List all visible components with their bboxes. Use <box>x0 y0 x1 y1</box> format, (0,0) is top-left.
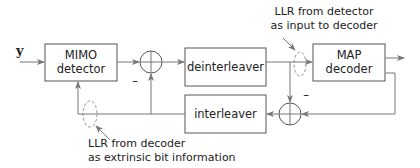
detector-llr-annotation-line1: LLR from detector <box>275 5 374 18</box>
detector-llr-annotation-line2: as input to decoder <box>270 19 378 32</box>
input-symbol-y: y <box>15 43 24 58</box>
detector-llr-pointer <box>283 38 295 50</box>
adder-bottom <box>279 103 301 125</box>
adder-top <box>140 51 162 73</box>
detector-llr-marker <box>294 52 306 76</box>
turbo-mimo-receiver-diagram: y MIMO detector – deinterleaver LLR from… <box>0 0 420 168</box>
adder-bottom-minus-sign: – <box>303 88 309 102</box>
adder-top-minus-sign: – <box>132 74 138 88</box>
decoder-llr-annotation-line2: as extrinsic bit information <box>88 151 236 164</box>
map-decoder-label-line2: decoder <box>326 62 373 76</box>
interleaver-block: interleaver <box>185 95 266 133</box>
mimo-detector-label-line1: MIMO <box>65 48 97 62</box>
map-decoder-block: MAP decoder <box>313 44 385 81</box>
interleaver-label: interleaver <box>194 107 257 121</box>
deinterleaver-label: deinterleaver <box>187 60 264 74</box>
map-decoder-label-line1: MAP <box>337 48 362 62</box>
mimo-detector-label-line2: detector <box>57 62 106 76</box>
decoder-llr-annotation-line1: LLR from decoder <box>88 137 186 150</box>
mimo-detector-block: MIMO detector <box>45 44 117 81</box>
deinterleaver-block: deinterleaver <box>185 48 266 86</box>
